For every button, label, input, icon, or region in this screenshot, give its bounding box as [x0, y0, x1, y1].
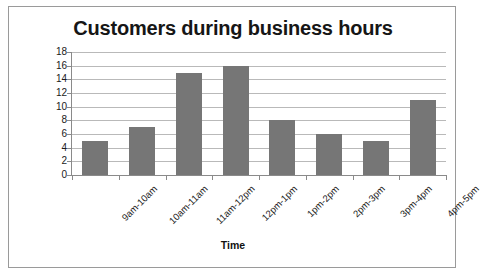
bar[interactable] — [223, 66, 249, 175]
bar-slot — [259, 52, 306, 175]
y-axis-tick-mark — [67, 175, 72, 176]
y-axis-tick-mark — [67, 134, 72, 135]
x-axis-tick-label: 9am-10am — [119, 183, 159, 223]
plot-area — [72, 52, 446, 175]
x-axis-tick-mark — [72, 175, 73, 180]
y-axis-tick-mark — [67, 93, 72, 94]
bar-slot — [119, 52, 166, 175]
y-axis-tick-mark — [67, 161, 72, 162]
y-axis-tick-mark — [67, 107, 72, 108]
bar[interactable] — [410, 100, 436, 175]
x-axis-tick-mark — [399, 175, 400, 180]
bar-slot — [306, 52, 353, 175]
x-axis-tick-mark — [306, 175, 307, 180]
y-axis-tick-label: 0 — [45, 170, 67, 180]
bar-slot — [72, 52, 119, 175]
x-axis-tick-label: 2pm-3pm — [351, 183, 387, 219]
bar[interactable] — [129, 127, 155, 175]
x-axis-tick-mark — [446, 175, 447, 180]
y-axis-tick-mark — [67, 148, 72, 149]
y-axis-tick-label: 16 — [45, 61, 67, 71]
bar-slot — [212, 52, 259, 175]
x-axis-tick-label: 1pm-2pm — [304, 183, 340, 219]
y-axis-tick-label: 4 — [45, 143, 67, 153]
x-axis-tick-label: 11am-12pm — [214, 183, 257, 226]
chart-frame: Customers during business hours Number o… — [8, 6, 456, 268]
bar-slot — [166, 52, 213, 175]
y-axis-tick-label: 8 — [45, 115, 67, 125]
y-axis-tick-labels: 181614121086420 — [42, 52, 67, 175]
x-axis-tick-label: 4pm-5pm — [445, 183, 481, 219]
bar-slot — [399, 52, 446, 175]
y-axis-tick-label: 18 — [45, 47, 67, 57]
y-axis-tick-mark — [67, 66, 72, 67]
x-axis-tick-label: 3pm-4pm — [398, 183, 434, 219]
bar[interactable] — [176, 73, 202, 176]
x-axis-tick-mark — [212, 175, 213, 180]
chart-title: Customers during business hours — [9, 17, 457, 40]
y-axis-tick-label: 2 — [45, 156, 67, 166]
x-axis-tick-mark — [259, 175, 260, 180]
y-axis-tick-mark — [67, 79, 72, 80]
x-axis-title: Time — [9, 239, 457, 251]
x-axis-tick-mark — [166, 175, 167, 180]
x-axis-tick-mark — [353, 175, 354, 180]
y-axis-tick-label: 6 — [45, 129, 67, 139]
x-axis-tick-mark — [119, 175, 120, 180]
bar[interactable] — [363, 141, 389, 175]
y-axis-tick-mark — [67, 120, 72, 121]
y-axis-tick-label: 10 — [45, 102, 67, 112]
bar-slot — [353, 52, 400, 175]
y-axis-tick-label: 14 — [45, 74, 67, 84]
bar[interactable] — [82, 141, 108, 175]
x-axis-tick-label: 12pm-1pm — [259, 183, 299, 223]
bar[interactable] — [316, 134, 342, 175]
y-axis-tick-label: 12 — [45, 88, 67, 98]
bar[interactable] — [269, 120, 295, 175]
x-axis-tick-label: 10am-11am — [167, 183, 210, 226]
y-axis-tick-mark — [67, 52, 72, 53]
